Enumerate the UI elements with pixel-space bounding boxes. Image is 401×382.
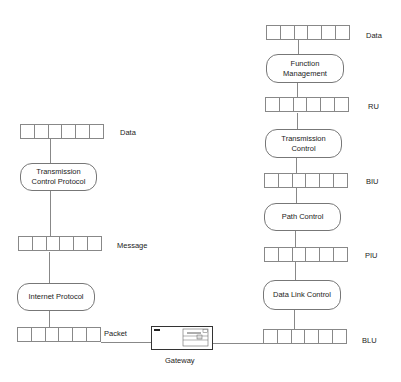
process-transmission-control: Transmission Control — [265, 129, 342, 158]
gateway-device — [151, 326, 213, 350]
connector-line — [50, 190, 51, 238]
link-line — [212, 343, 264, 344]
buffer-data-right — [266, 25, 350, 40]
connector-line — [295, 230, 296, 247]
buffer-label: Packet — [104, 329, 127, 338]
buffer-label: RU — [368, 102, 379, 111]
connector-line — [296, 157, 297, 173]
buffer-label: Data — [120, 128, 136, 137]
buffer-label: PIU — [365, 251, 378, 260]
buffer-blu — [263, 329, 347, 344]
buffer-biu — [264, 173, 348, 188]
connector-line — [297, 113, 298, 129]
process-function-management: Function Management — [266, 54, 344, 83]
process-data-link-control: Data Link Control — [263, 280, 341, 310]
link-line — [101, 342, 152, 343]
process-ip: Internet Protocol — [17, 283, 95, 311]
gateway-label: Gateway — [165, 356, 195, 365]
process-path-control: Path Control — [264, 203, 341, 231]
buffer-message — [18, 236, 102, 251]
buffer-label: BLU — [362, 336, 377, 345]
connector-line — [49, 252, 50, 283]
connector-line — [295, 262, 296, 281]
computer-window-icon — [152, 327, 211, 348]
buffer-data-left — [20, 124, 104, 139]
buffer-label: Data — [366, 31, 382, 40]
connector-line — [296, 188, 297, 203]
process-tcp: Transmission Control Protocol — [20, 163, 97, 191]
buffer-label: BIU — [366, 177, 379, 186]
connector-line — [298, 40, 299, 54]
connector-line — [49, 310, 50, 328]
buffer-packet — [17, 327, 101, 342]
buffer-piu — [264, 247, 348, 262]
connector-line — [297, 82, 298, 98]
buffer-label: Message — [117, 241, 147, 250]
connector-line — [294, 309, 295, 329]
buffer-ru — [265, 97, 349, 112]
connector-line — [50, 139, 51, 164]
